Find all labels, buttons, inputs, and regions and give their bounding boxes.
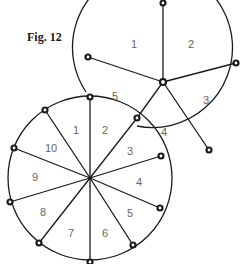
upper-segment-2: 2 — [188, 38, 194, 50]
lower-segment-6: 6 — [102, 227, 108, 239]
lower-segment-8: 8 — [40, 206, 46, 218]
lower-segment-7: 7 — [68, 227, 74, 239]
lower-segment-10: 10 — [45, 142, 57, 154]
upper-segment-3: 3 — [203, 94, 209, 106]
lower-segment-3: 3 — [127, 145, 133, 157]
upper-segment-5: 5 — [112, 90, 118, 102]
lower-segment-1: 1 — [73, 124, 79, 136]
wheel-diagram: 1 2 3 4 5 1 2 3 4 5 6 7 8 9 10 — [0, 0, 242, 264]
upper-wheel-rim — [72, 0, 232, 128]
upper-segment-1: 1 — [131, 38, 137, 50]
upper-segment-4: 4 — [161, 126, 167, 138]
lower-segment-9: 9 — [32, 171, 38, 183]
lower-segment-5: 5 — [127, 207, 133, 219]
lower-segment-2: 2 — [102, 124, 108, 136]
upper-wheel-labels: 1 2 3 4 5 — [112, 38, 209, 138]
lower-segment-4: 4 — [136, 176, 142, 188]
